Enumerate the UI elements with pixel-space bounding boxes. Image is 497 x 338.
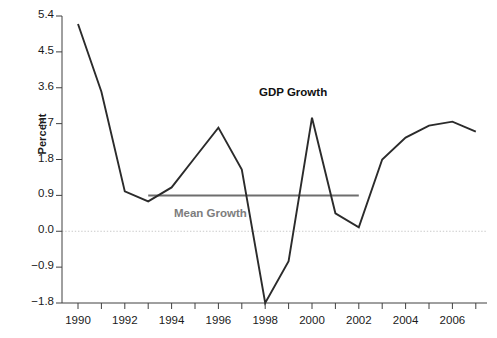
gdp-growth-chart: Percent −1.8−0.90.00.91.82.73.64.55.4 19… [0,0,497,338]
x-tick-label: 2004 [384,314,428,326]
y-tick-label: −0.9 [12,259,54,271]
gdp-growth-series-line [78,24,476,303]
x-tick-label: 1994 [150,314,194,326]
y-tick-label: 5.4 [12,8,54,20]
mean-growth-label: Mean Growth [174,207,247,219]
y-tick-label: 3.6 [12,80,54,92]
x-tick-label: 1996 [196,314,240,326]
x-tick-label: 1992 [103,314,147,326]
x-tick-label: 1998 [243,314,287,326]
y-tick-label: −1.8 [12,295,54,307]
y-tick-label: 0.0 [12,223,54,235]
y-tick-label: 2.7 [12,116,54,128]
gdp-growth-series-label: GDP Growth [259,86,327,98]
y-tick-label: 1.8 [12,152,54,164]
chart-plot-area [0,0,497,338]
y-tick-label: 0.9 [12,187,54,199]
x-tick-label: 2002 [337,314,381,326]
x-tick-label: 2006 [430,314,474,326]
x-tick-label: 2000 [290,314,334,326]
gdp-growth-line [78,24,476,303]
chart-axes [62,16,487,303]
x-tick-label: 1990 [56,314,100,326]
y-tick-label: 4.5 [12,44,54,56]
